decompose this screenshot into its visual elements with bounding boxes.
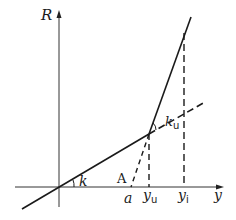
- tick-yi-label: yi: [178, 188, 189, 205]
- tick-yi-base: y: [178, 187, 186, 203]
- angle-ku-subscript: u: [173, 120, 179, 131]
- point-a-upper-label: A: [117, 172, 126, 185]
- angle-ku-label: ku: [165, 115, 179, 131]
- y-axis-label: y: [214, 188, 222, 202]
- angle-arc-k: [73, 180, 74, 187]
- dashed-line-to-a: [131, 134, 149, 187]
- tick-yu-label: yu: [143, 188, 157, 205]
- r-axis-arrow-icon: [57, 10, 62, 18]
- angle-arc-ku: [153, 123, 156, 130]
- tick-yi-subscript: i: [186, 194, 189, 205]
- point-a-lower-label: a: [124, 191, 132, 205]
- angle-ku-base: k: [165, 114, 173, 129]
- graph-canvas: [0, 0, 236, 220]
- tick-yu-subscript: u: [151, 194, 157, 205]
- r-axis-label: R: [41, 8, 52, 23]
- tick-yu-base: y: [143, 187, 151, 203]
- angle-k-label: k: [79, 174, 87, 188]
